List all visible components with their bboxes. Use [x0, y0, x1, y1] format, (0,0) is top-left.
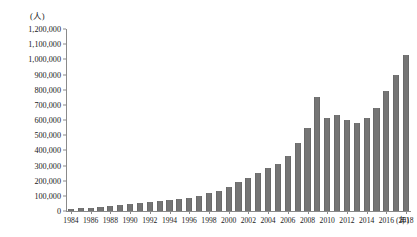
bar [137, 203, 143, 211]
y-tick-label: 200,000 [34, 176, 66, 185]
y-tick-label: 300,000 [34, 161, 66, 170]
bar-series [66, 29, 411, 211]
x-axis-line [66, 211, 411, 212]
x-tick-label: 2012 [339, 216, 354, 225]
bar [78, 208, 84, 211]
bar [147, 202, 153, 211]
x-tick-label: 1990 [122, 216, 137, 225]
x-tick-mark [248, 211, 249, 214]
bar [206, 193, 212, 211]
x-tick-mark [189, 211, 190, 214]
x-tick-mark [288, 211, 289, 214]
x-tick-mark [71, 211, 72, 214]
x-tick-label: 1992 [142, 216, 157, 225]
y-tick-label: 1,200,000 [28, 25, 66, 34]
bar [334, 115, 340, 211]
y-tick-label: 100,000 [34, 191, 66, 200]
x-tick-mark [170, 211, 171, 214]
y-tick-label: 600,000 [34, 116, 66, 125]
x-tick-label: 1988 [103, 216, 118, 225]
bar [373, 108, 379, 211]
x-tick-mark [367, 211, 368, 214]
bar [403, 55, 409, 211]
y-tick-label: 1,000,000 [28, 55, 66, 64]
y-tick-label: 700,000 [34, 100, 66, 109]
x-tick-mark [386, 211, 387, 214]
bar [235, 182, 241, 211]
bar [344, 120, 350, 211]
plot-area: 1,200,0001,100,0001,000,000900,000800,00… [66, 29, 411, 211]
x-axis-unit-label: (年) [396, 216, 409, 225]
bar [383, 91, 389, 211]
bar [285, 156, 291, 211]
x-tick-mark [308, 211, 309, 214]
x-tick-label: 1996 [182, 216, 197, 225]
bar [97, 207, 103, 211]
bar [127, 204, 133, 211]
y-axis-unit-label: (人) [30, 11, 45, 21]
bar-chart: (人) 1,200,0001,100,0001,000,000900,00080… [0, 0, 417, 237]
x-tick-label: 1984 [63, 216, 78, 225]
x-tick-mark [268, 211, 269, 214]
y-tick-label: 500,000 [34, 131, 66, 140]
x-tick-label: 2006 [280, 216, 295, 225]
x-tick-label: 2000 [221, 216, 236, 225]
x-tick-mark [327, 211, 328, 214]
y-tick-label: 900,000 [34, 70, 66, 79]
bar [393, 75, 399, 212]
x-tick-label: 2004 [260, 216, 275, 225]
bar [226, 187, 232, 211]
bar [275, 164, 281, 211]
x-tick-mark [110, 211, 111, 214]
x-tick-mark [406, 211, 407, 214]
bar [304, 128, 310, 211]
bar [166, 200, 172, 211]
y-tick-label: 1,100,000 [28, 40, 66, 49]
bar [216, 191, 222, 211]
bar [265, 168, 271, 211]
x-tick-mark [209, 211, 210, 214]
x-tick-label: 2016 [379, 216, 394, 225]
x-tick-mark [150, 211, 151, 214]
bar [324, 118, 330, 211]
bar [117, 205, 123, 211]
bar [314, 97, 320, 211]
bar [196, 196, 202, 211]
bar [354, 123, 360, 211]
x-tick-label: 1994 [162, 216, 177, 225]
y-tick-label: 400,000 [34, 146, 66, 155]
bar [157, 201, 163, 211]
y-tick-label: 800,000 [34, 85, 66, 94]
bar [364, 118, 370, 211]
bar [295, 143, 301, 211]
bar [245, 178, 251, 211]
x-tick-label: 2008 [300, 216, 315, 225]
x-tick-mark [91, 211, 92, 214]
bar [176, 199, 182, 211]
x-tick-label: 1986 [83, 216, 98, 225]
bar [186, 198, 192, 211]
x-tick-mark [347, 211, 348, 214]
bar [255, 173, 261, 211]
x-tick-mark [130, 211, 131, 214]
x-tick-label: 2010 [320, 216, 335, 225]
x-tick-label: 2014 [359, 216, 374, 225]
x-tick-mark [229, 211, 230, 214]
x-tick-label: 1998 [201, 216, 216, 225]
x-tick-label: 2002 [241, 216, 256, 225]
